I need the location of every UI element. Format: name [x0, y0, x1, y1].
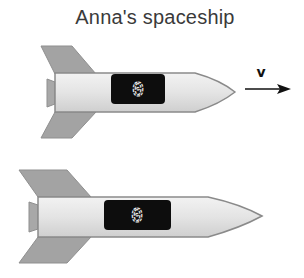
clock-digit: 0 — [131, 203, 143, 227]
bottom-fin — [41, 112, 96, 138]
top-fin — [41, 46, 96, 74]
rocket-anna: 0 — [41, 46, 235, 138]
clock-digit: 0 — [132, 77, 144, 101]
rocket-diagram: 0 v 0 — [0, 0, 304, 278]
top-fin — [19, 170, 91, 197]
rocket-stationary: 0 — [19, 170, 262, 263]
velocity-label: v — [256, 64, 265, 80]
engine-nozzle — [29, 202, 38, 232]
bottom-fin — [19, 237, 91, 263]
velocity-indicator: v — [245, 64, 291, 94]
engine-nozzle — [47, 79, 55, 107]
